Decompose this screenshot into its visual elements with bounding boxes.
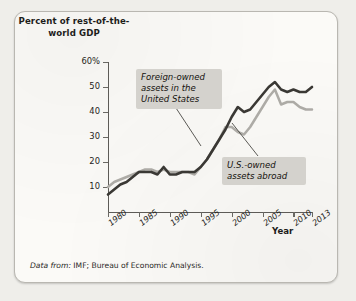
y-tick-label: 20 bbox=[89, 156, 100, 166]
y-tick-label: 30 bbox=[89, 131, 100, 141]
y-tick-label: 40 bbox=[89, 106, 100, 116]
y-axis-title: Percent of rest-of-the-world GDP bbox=[18, 16, 130, 39]
chart-figure: Percent of rest-of-the-world GDP 60%5040… bbox=[0, 0, 356, 301]
source-text: IMF; Bureau of Economic Analysis. bbox=[71, 261, 204, 270]
source-label: Data from: bbox=[30, 261, 71, 270]
callout-us-owned-assets: U.S.-owned assets abroad bbox=[222, 157, 306, 185]
y-tick-label: 60% bbox=[81, 56, 100, 66]
x-axis-title: Year bbox=[272, 226, 293, 236]
y-tick-label: 50 bbox=[89, 81, 100, 91]
callout-foreign-owned-assets: Foreign-owned assets in the United State… bbox=[136, 69, 222, 109]
y-tick-label: 10 bbox=[89, 181, 100, 191]
source-note: Data from: IMF; Bureau of Economic Analy… bbox=[30, 261, 204, 270]
